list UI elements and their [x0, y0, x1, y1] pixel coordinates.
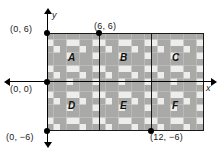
point-0-6: [44, 30, 50, 36]
point-label-0-neg6: (0, −6): [6, 132, 34, 142]
region-label-c: C: [172, 52, 179, 63]
point-origin: [44, 79, 50, 85]
point-label-0-6: (0, 6): [10, 24, 32, 34]
rect-edge-bottom: [47, 130, 204, 131]
point-label-origin: (0, 0): [10, 84, 32, 94]
point-0-neg6: [44, 128, 50, 134]
x-axis: [8, 81, 213, 82]
rect-edge-right: [203, 33, 204, 131]
tessellation-plane: [47, 33, 203, 131]
divider-line-x12: [151, 33, 152, 131]
tessellation-pattern: [47, 33, 203, 131]
point-label-6-6: (6, 6): [94, 21, 116, 31]
y-axis-arrow-up-icon: [44, 8, 52, 14]
figure-canvas: y x (0, 6) (6, 6) (0, 0) (0, −6) (12, −6…: [0, 0, 221, 159]
region-label-e: E: [120, 100, 127, 111]
region-label-d: D: [68, 100, 75, 111]
y-axis-label: y: [52, 10, 57, 20]
divider-line-x6: [99, 33, 100, 131]
region-label-f: F: [172, 100, 178, 111]
region-label-b: B: [120, 52, 127, 63]
x-axis-arrow-right-icon: [211, 78, 217, 86]
y-axis-arrow-down-icon: [44, 142, 52, 148]
point-label-12-neg6: (12, −6): [150, 132, 183, 142]
x-axis-label: x: [206, 83, 211, 93]
rect-edge-top: [47, 33, 204, 34]
region-label-a: A: [68, 52, 75, 63]
